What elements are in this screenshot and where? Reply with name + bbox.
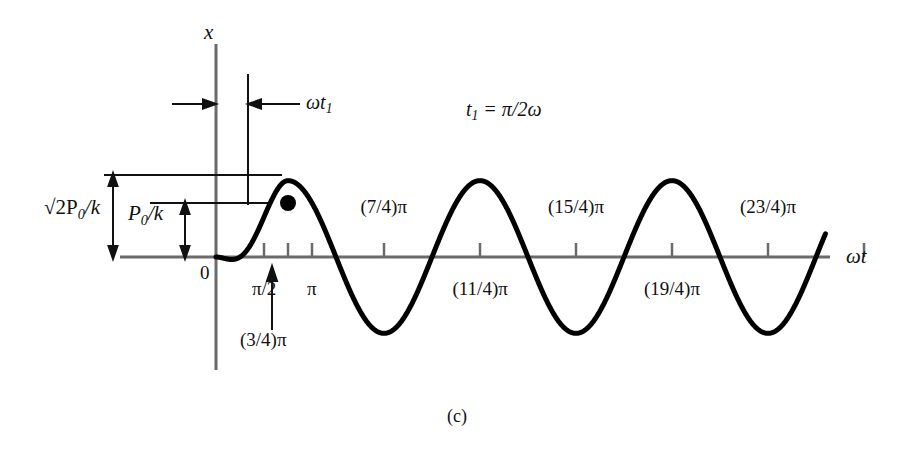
wt1-subscript: 1	[326, 101, 333, 116]
axis-tick-group	[264, 243, 864, 257]
x-tick-label: (15/4)π	[548, 197, 604, 216]
amplitude-outer-prefix: √2P	[44, 195, 78, 219]
y-axis-label: x	[204, 22, 213, 43]
amplitude-outer-subscript: 0	[78, 206, 85, 222]
origin-label: 0	[200, 263, 210, 282]
amplitude-outer-label: √2P0/k	[44, 197, 100, 221]
x-tick-label: π	[307, 279, 317, 298]
t1-equation-rhs: = π/2ω	[483, 98, 541, 120]
wt1-label: ωt1	[306, 92, 332, 116]
x-tick-label: (7/4)π	[361, 197, 408, 216]
t1-equation: t1 = π/2ω	[466, 99, 542, 123]
x-tick-label: π/2	[252, 279, 276, 298]
figure-caption: (c)	[447, 406, 467, 427]
amplitude-inner-suffix: /k	[148, 201, 163, 225]
x-tick-label: (23/4)π	[740, 197, 796, 216]
amplitude-inner-prefix: P	[128, 201, 141, 225]
amplitude-inner-subscript: 0	[141, 212, 148, 228]
marked-point-label: (3/4)π	[240, 330, 287, 349]
amplitude-outer-suffix: /k	[85, 195, 100, 219]
figure-container: x ωt 0 √2P0/k P0/k ωt1 t1 = π/2ω (3/4)π …	[0, 0, 920, 451]
wt1-text: ωt	[306, 91, 326, 113]
x-tick-label: (11/4)π	[453, 279, 508, 298]
amplitude-inner-label: P0/k	[128, 203, 163, 227]
x-tick-label: (19/4)π	[644, 279, 700, 298]
amplitude-outer-arrowhead-bottom	[109, 246, 118, 259]
wt1-arrowhead-left	[203, 100, 216, 109]
x-axis-label: ωt	[846, 246, 867, 267]
wt1-arrowhead-right	[248, 100, 261, 109]
t1-equation-subscript: 1	[472, 108, 479, 123]
marked-point-dot	[280, 195, 296, 211]
